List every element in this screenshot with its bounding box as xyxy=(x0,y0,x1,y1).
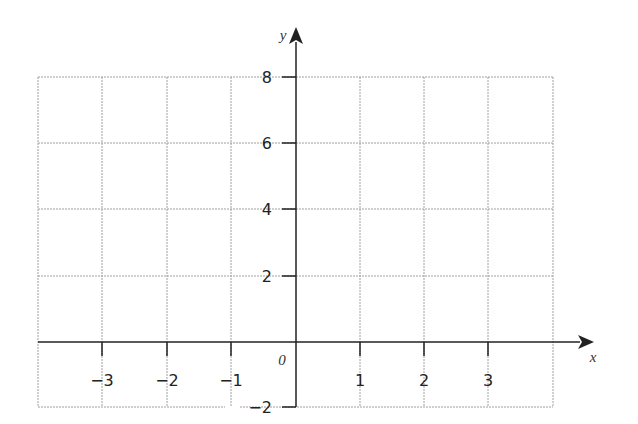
x-tick-label: −1 xyxy=(219,371,243,390)
x-tick-label: 3 xyxy=(483,371,493,390)
x-axis-arrow-icon xyxy=(578,335,594,349)
x-tick-label: 2 xyxy=(419,371,429,390)
x-tick-marks xyxy=(102,342,488,356)
x-axis-label: x xyxy=(589,349,597,365)
y-axis-label: y xyxy=(278,27,287,43)
x-tick-label: 1 xyxy=(355,371,365,390)
origin-label: 0 xyxy=(278,352,286,368)
y-tick-label: −2 xyxy=(248,398,272,417)
x-tick-label: −3 xyxy=(90,371,114,390)
y-tick-label: 2 xyxy=(262,267,272,286)
y-tick-label: 6 xyxy=(262,134,272,153)
coordinate-grid: −3 −2 −1 1 2 3 8 6 4 2 −2 0 x y xyxy=(0,0,638,424)
y-axis-arrow-icon xyxy=(289,27,303,44)
y-tick-label: 8 xyxy=(262,68,272,87)
y-tick-label: 4 xyxy=(262,200,272,219)
x-tick-label: −2 xyxy=(155,371,179,390)
